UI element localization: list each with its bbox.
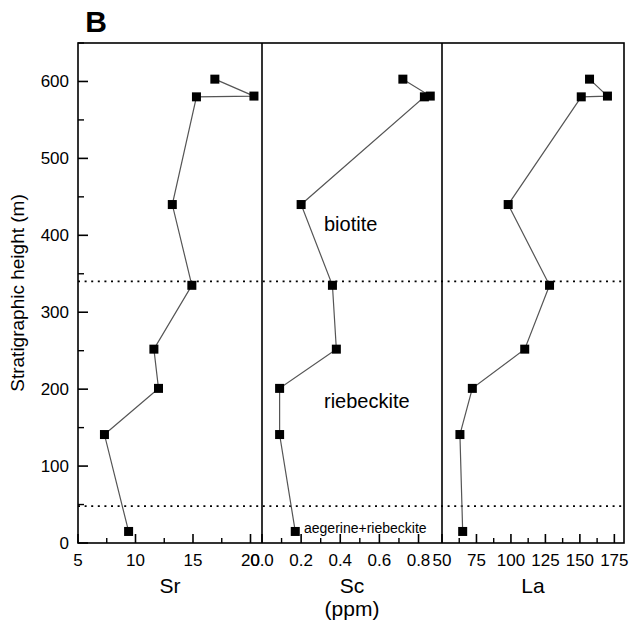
figure-canvas: B0100200300400500600Stratigraphic height…: [0, 0, 635, 620]
y-tick-label: 0: [60, 534, 69, 553]
data-point-sr: [149, 345, 158, 354]
data-point-sc: [291, 527, 300, 536]
x-tick-label: 0.6: [368, 551, 392, 570]
data-point-sr: [210, 75, 219, 84]
y-tick-label: 100: [41, 457, 69, 476]
data-point-la: [468, 384, 477, 393]
x-tick-label: 50: [433, 551, 452, 570]
data-point-sc: [328, 281, 337, 290]
x-tick-label: 0.8: [407, 551, 431, 570]
data-point-la: [545, 281, 554, 290]
data-point-sr: [124, 527, 133, 536]
panel-letter: B: [85, 5, 107, 38]
x-tick-label: 0.2: [289, 551, 313, 570]
data-point-sc: [275, 384, 284, 393]
y-tick-label: 400: [41, 226, 69, 245]
data-point-la: [585, 75, 594, 84]
data-point-sr: [192, 92, 201, 101]
x-tick-label: 5: [73, 551, 82, 570]
x-tick-label: 175: [600, 551, 628, 570]
x-tick-label: 0.0: [250, 551, 274, 570]
y-tick-label: 500: [41, 149, 69, 168]
y-tick-label: 300: [41, 303, 69, 322]
data-point-sr: [249, 92, 258, 101]
y-tick-label: 600: [41, 72, 69, 91]
data-point-la: [520, 345, 529, 354]
x-tick-label: 125: [531, 551, 559, 570]
data-point-la: [603, 92, 612, 101]
data-point-sc: [297, 200, 306, 209]
data-point-la: [504, 200, 513, 209]
x-axis-title-sr: Sr: [160, 574, 181, 597]
data-point-sr: [100, 430, 109, 439]
x-tick-label: 10: [126, 551, 145, 570]
data-point-la: [458, 527, 467, 536]
data-point-la: [577, 92, 586, 101]
x-axis-title-sc: Sc: [340, 574, 365, 597]
x-axis-units: (ppm): [325, 597, 380, 620]
data-point-sr: [154, 384, 163, 393]
annotation-riebeckite: riebeckite: [324, 390, 410, 412]
y-tick-label: 200: [41, 380, 69, 399]
x-tick-label: 75: [467, 551, 486, 570]
data-point-sr: [168, 200, 177, 209]
data-point-sc: [275, 430, 284, 439]
x-tick-label: 100: [497, 551, 525, 570]
annotation-aegerine-riebeckite: aegerine+riebeckite: [304, 520, 427, 536]
y-axis-label: Stratigraphic height (m): [7, 194, 28, 391]
stratigraphic-geochemistry-figure: B0100200300400500600Stratigraphic height…: [0, 0, 635, 620]
data-point-sc: [426, 92, 435, 101]
data-point-sr: [187, 281, 196, 290]
data-point-la: [455, 430, 464, 439]
data-point-sc: [332, 345, 341, 354]
data-point-sc: [398, 75, 407, 84]
x-tick-label: 15: [184, 551, 203, 570]
x-tick-label: 150: [566, 551, 594, 570]
annotation-biotite: biotite: [324, 213, 377, 235]
x-tick-label: 0.4: [328, 551, 352, 570]
x-axis-title-la: La: [521, 574, 545, 597]
